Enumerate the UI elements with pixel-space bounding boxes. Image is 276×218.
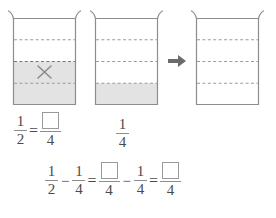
denominator: 4 [73,181,85,197]
equals-sign: = [147,172,160,190]
fraction-one-quarter: 1 4 [134,164,147,197]
equation-row-two: 1 2 − 1 4 = 4 − 1 4 = 4 [45,162,181,198]
beaker-one-half [13,18,76,105]
denominator: 4 [117,134,129,150]
fraction-answer-over-four-first: 4 [99,162,120,198]
fraction-one-quarter: 1 4 [116,117,129,150]
fraction-one-quarter: 1 4 [72,164,85,197]
beaker-one-quarter [95,18,158,105]
equation-row-one-left: 1 2 = 4 [14,112,61,148]
equals-sign: = [85,172,98,190]
numerator-answer-slot[interactable] [40,112,61,131]
answer-box[interactable] [101,162,118,179]
answer-box[interactable] [162,162,179,179]
numerator: 1 [73,164,85,180]
beaker-result-empty [196,18,259,105]
denominator: 4 [103,182,115,198]
numerator-answer-slot[interactable] [99,162,120,181]
denominator: 4 [45,132,57,148]
fraction-answer-over-four-second: 4 [160,162,181,198]
denominator: 2 [46,181,58,197]
fraction-one-half: 1 2 [45,164,58,197]
numerator: 1 [117,117,129,133]
denominator: 2 [15,131,27,147]
worksheet-canvas: 1 2 = 4 1 4 1 2 − 1 4 = [0,0,276,218]
numerator: 1 [135,164,147,180]
minus-sign: − [58,173,72,190]
numerator: 1 [46,164,58,180]
fraction-one-half: 1 2 [14,114,27,147]
answer-box[interactable] [42,112,59,129]
equals-sign: = [27,122,40,140]
equation-row-one-right: 1 4 [116,117,129,150]
fraction-answer-over-four: 4 [40,112,61,148]
denominator: 4 [135,181,147,197]
denominator: 4 [165,182,177,198]
right-arrow-icon [167,52,187,70]
numerator-answer-slot[interactable] [160,162,181,181]
minus-sign: − [120,173,134,190]
numerator: 1 [15,114,27,130]
